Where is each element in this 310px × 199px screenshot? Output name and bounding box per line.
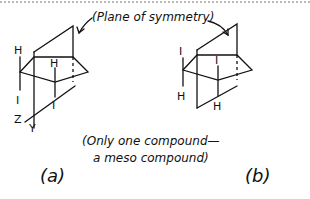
atom-label: H — [213, 100, 221, 113]
atom-label: H — [177, 90, 185, 103]
atom-label: I — [179, 45, 182, 58]
caption-line-1: (Only one compound— — [82, 134, 220, 148]
z-axis-line-a — [25, 86, 75, 122]
axis-label-y: Y — [28, 122, 36, 135]
axis-label-z: Z — [14, 113, 22, 126]
atom-label: I — [215, 54, 218, 67]
plane-of-symmetry-a — [34, 26, 73, 57]
plane-of-symmetry-annotation: (Plane of symmetry) — [92, 10, 214, 24]
plane-of-symmetry-b — [197, 24, 237, 55]
panel-label-a: (a) — [40, 165, 65, 186]
meso-compound-diagram: H I H I Z Y (Plane of symmetry) I H I H … — [0, 0, 310, 199]
atom-label: I — [52, 99, 55, 112]
atom-label: I — [16, 94, 19, 107]
atom-label: H — [50, 57, 58, 70]
structure-b: I H I H — [177, 24, 252, 113]
atom-label: H — [14, 44, 22, 57]
structure-a: H I H I Z Y — [14, 26, 88, 135]
caption-line-2: a meso compound) — [93, 151, 209, 165]
panel-label-b: (b) — [245, 165, 270, 186]
